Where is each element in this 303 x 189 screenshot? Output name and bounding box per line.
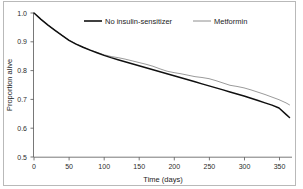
y-tick-label-0.6: 0.6: [17, 125, 27, 132]
legend-label-no-insulin-sensitizer: No insulin-sensitizer: [105, 17, 173, 26]
y-tick-label-0.5: 0.5: [17, 154, 27, 161]
y-tick-label-0.8: 0.8: [17, 67, 27, 74]
chart-canvas: 1.0 0.9 0.8 0.7 0.6 0.5 0 50 100 150 200…: [0, 0, 303, 189]
series-line-metformin: [34, 13, 290, 105]
x-tick-label-300: 300: [239, 163, 251, 170]
x-axis-title: Time (days): [143, 175, 183, 184]
y-tick-label-0.9: 0.9: [17, 38, 27, 45]
x-tick-marks: [34, 157, 280, 160]
x-tick-label-100: 100: [98, 163, 110, 170]
x-tick-label-200: 200: [168, 163, 180, 170]
legend-label-metformin: Metformin: [214, 17, 247, 26]
series-line-no-insulin-sensitizer: [34, 13, 290, 118]
y-tick-label-0.7: 0.7: [17, 96, 27, 103]
legend: No insulin-sensitizer Metformin: [84, 17, 247, 26]
y-tick-label-1.0: 1.0: [17, 10, 27, 17]
x-tick-label-50: 50: [65, 163, 73, 170]
x-tick-label-350: 350: [274, 163, 286, 170]
survival-curve-figure: 1.0 0.9 0.8 0.7 0.6 0.5 0 50 100 150 200…: [0, 0, 303, 189]
x-tick-label-0: 0: [32, 163, 36, 170]
y-axis-title: Proportion alive: [5, 59, 14, 111]
x-tick-label-250: 250: [204, 163, 216, 170]
x-tick-label-150: 150: [133, 163, 145, 170]
y-tick-marks: [31, 13, 34, 157]
